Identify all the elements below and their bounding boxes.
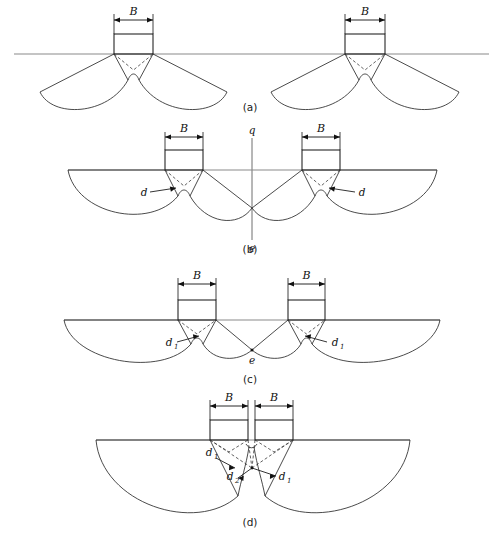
panel-b: q e B <box>0 118 501 260</box>
slip-surface-inner <box>252 344 301 358</box>
axis-label-q: q <box>249 124 256 136</box>
slip-radial-left <box>252 170 302 208</box>
label-d1-right: d <box>332 336 339 348</box>
wedge-under-footing <box>165 170 203 186</box>
panel-caption: (c) <box>243 373 257 385</box>
wedge-under-footing <box>114 54 153 70</box>
convergence-point <box>251 467 254 470</box>
dimension-label-B: B <box>224 391 233 404</box>
label-e: e <box>249 354 255 366</box>
slip-radial-right <box>153 54 227 92</box>
leader-line-d1-left <box>216 458 235 468</box>
slip-radial-left-inner <box>165 170 178 196</box>
slip-cusp <box>128 74 139 80</box>
slip-cusp <box>359 74 371 80</box>
label-d1-right: d <box>279 470 286 482</box>
footing-block <box>165 150 203 170</box>
slip-radial-left <box>271 54 345 92</box>
dashed-ray-right-outer <box>252 440 293 468</box>
slip-radial-right-inner <box>371 54 385 80</box>
dimension-label-B: B <box>316 122 325 135</box>
panel-c: B d 1 B <box>0 258 501 390</box>
slip-radial-right <box>216 320 252 350</box>
slip-radial-right-inner <box>203 320 216 344</box>
footing-group-left: B d 1 <box>64 269 252 362</box>
footing-block <box>114 34 153 54</box>
slip-radial-left-inner <box>114 54 128 80</box>
footing-block <box>345 34 385 54</box>
slip-surface-left <box>96 440 238 513</box>
slip-radial-left <box>40 54 114 92</box>
dimension-label-B: B <box>179 122 188 135</box>
footing-block <box>255 420 293 440</box>
footing-group-right: B d <box>252 122 437 221</box>
label-d1-right-subscript: 1 <box>287 477 291 485</box>
footing-block <box>210 420 248 440</box>
wedge-under-footing <box>302 170 340 186</box>
slip-radial-right <box>203 170 252 208</box>
footing-group-right: B <box>255 391 293 452</box>
slip-radial-right <box>385 54 459 92</box>
panel-caption: (b) <box>243 243 258 255</box>
label-d1-right-subscript: 1 <box>340 343 344 351</box>
intersection-point-e <box>251 349 254 352</box>
leader-line-d2 <box>238 468 252 478</box>
dimension-label-B: B <box>128 5 137 18</box>
slip-surface-right <box>327 170 437 214</box>
label-d-left: d <box>141 186 148 198</box>
dashed-ray-right-inner <box>252 440 255 468</box>
wedge-under-footing <box>210 440 248 452</box>
slip-radial-left-inner <box>178 320 191 344</box>
dimension-label-B: B <box>192 269 201 282</box>
footing-group-left: B <box>40 5 227 110</box>
panel-d: B B <box>0 392 501 547</box>
label-d-right: d <box>359 186 366 198</box>
panel-a: B <box>0 0 501 120</box>
label-d1-left: d <box>166 336 173 348</box>
slip-radial-left-inner <box>345 54 359 80</box>
panel-caption: (d) <box>243 516 258 528</box>
wedge-under-footing <box>345 54 385 70</box>
footing-block <box>178 300 216 320</box>
slip-radial-right-inner <box>312 320 325 344</box>
label-d1-left: d <box>206 446 213 458</box>
slip-surface-right <box>190 196 252 221</box>
slip-cusp <box>178 190 190 196</box>
label-d2: d <box>227 470 234 482</box>
slip-radial-left-inner <box>302 170 315 196</box>
footing-group-right: B <box>271 5 459 110</box>
footing-group-left: B <box>210 391 248 452</box>
slip-cusp <box>315 190 327 196</box>
label-d1-left-subscript: 1 <box>214 453 218 461</box>
footing-block <box>288 300 325 320</box>
slip-radial-left <box>252 320 288 350</box>
label-d2-subscript: 2 <box>234 477 240 485</box>
central-cusp <box>246 444 257 448</box>
wedge-under-footing <box>255 440 293 452</box>
footing-group-right: B d 1 <box>252 269 440 362</box>
dimension-label-B: B <box>269 391 278 404</box>
dashed-ray-left-inner <box>248 440 252 468</box>
panel-caption: (a) <box>243 101 258 113</box>
figure-root: B <box>0 0 501 547</box>
slip-surface-left <box>68 170 178 214</box>
slip-radial-right-inner <box>327 170 340 196</box>
slip-cusp <box>191 338 203 344</box>
combined-failure-mechanism: d 1 d 2 d 1 <box>96 440 410 513</box>
footing-group-left: B d <box>68 122 252 221</box>
wedge-under-footing <box>178 320 216 334</box>
dimension-label-B: B <box>301 269 310 282</box>
label-d1-left-subscript: 1 <box>174 343 178 351</box>
wedge-under-footing <box>288 320 325 334</box>
dimension-label-B: B <box>360 5 369 18</box>
slip-surface-left <box>252 196 315 221</box>
slip-surface-inner <box>203 344 252 358</box>
slip-radial-right-inner <box>139 54 153 80</box>
slip-radial-right-inner <box>190 170 203 196</box>
footing-block <box>302 150 340 170</box>
slip-radial-left-inner <box>288 320 301 344</box>
